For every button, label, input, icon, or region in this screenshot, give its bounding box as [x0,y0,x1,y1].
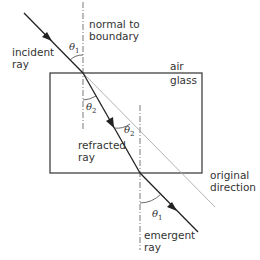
refracted-label-line1: refracted [78,140,126,151]
theta2-inside-arc [83,96,96,100]
normal-label-line1: normal to [89,19,140,30]
theta1-top-label: θ1 [69,41,80,55]
refracted-label-line2: ray [78,152,95,163]
theta2-inside-label: θ2 [86,101,97,115]
incident-label-line2: ray [12,59,29,70]
emergent-ray [140,173,198,232]
original-label-line1: original [210,170,249,181]
glass-label: glass [170,75,197,86]
air-label: air [170,61,184,72]
original-label-line2: direction [210,182,256,193]
theta1-bottom-arc [140,194,161,203]
normal-label-line2: boundary [89,31,139,42]
refracted-arrow-icon [106,117,114,128]
emergent-label-line1: emergent [144,230,195,241]
incident-label-line1: incident [12,47,54,58]
theta2-alt-label: θ2 [124,124,135,138]
theta1-top-arc [70,55,83,60]
glass-block [50,73,202,173]
emergent-label-line2: ray [144,242,161,253]
emergent-arrow-icon [167,202,177,211]
theta1-bottom-label: θ1 [152,208,163,222]
